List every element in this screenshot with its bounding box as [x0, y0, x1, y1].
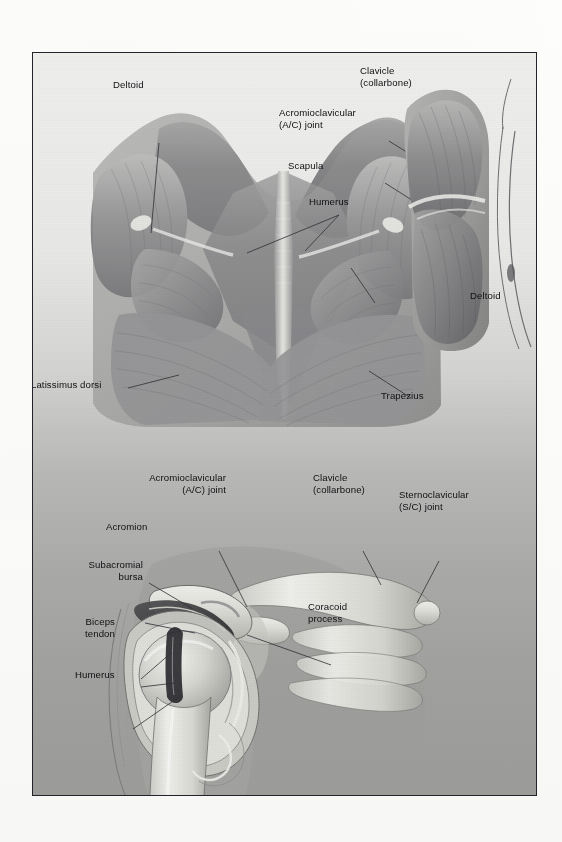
illustration-plate: Deltoid Clavicle (collarbone) Acromiocla… [32, 52, 537, 796]
label-humerus-bottom: Humerus [75, 669, 115, 681]
label-ac-joint-top: Acromioclavicular (A/C) joint [279, 107, 356, 132]
page-root: Deltoid Clavicle (collarbone) Acromiocla… [0, 0, 562, 842]
label-clavicle-bottom: Clavicle (collarbone) [313, 472, 365, 497]
label-ac-joint-bottom: Acromioclavicular (A/C) joint [146, 472, 226, 497]
label-coracoid-process: Coracoid process [308, 601, 347, 626]
label-latissimus-dorsi: Latissimus dorsi [32, 379, 101, 391]
anatomy-artwork [33, 53, 537, 796]
label-scapula: Scapula [288, 160, 323, 172]
label-clavicle-top: Clavicle (collarbone) [360, 65, 412, 90]
label-deltoid-left: Deltoid [113, 79, 144, 91]
label-biceps-tendon: Biceps tendon [55, 616, 115, 641]
label-sc-joint: Sternoclavicular (S/C) joint [399, 489, 469, 514]
label-subacromial-bursa: Subacromial bursa [61, 559, 143, 584]
label-acromion: Acromion [106, 521, 147, 533]
label-deltoid-right: Deltoid [470, 290, 501, 302]
label-trapezius: Trapezius [381, 390, 424, 402]
label-humerus-top: Humerus [309, 196, 349, 208]
